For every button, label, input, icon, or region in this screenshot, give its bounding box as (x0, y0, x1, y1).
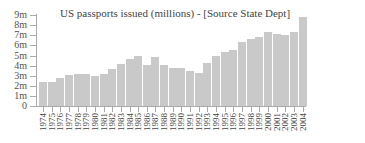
bar-1983 (117, 64, 125, 106)
x-tick-mark (199, 107, 200, 112)
bar-1990 (177, 68, 185, 106)
bar-1987 (151, 57, 159, 106)
bar-1998 (247, 39, 255, 106)
y-tick-label: 9m (0, 10, 27, 20)
x-axis (36, 106, 306, 107)
bar-1976 (56, 78, 64, 106)
y-tick-label: 4m (0, 61, 27, 71)
bar-1988 (160, 65, 168, 106)
bar-1982 (108, 69, 116, 106)
x-tick-mark (303, 107, 304, 112)
y-tick-mark (30, 35, 36, 36)
x-tick-mark (69, 107, 70, 112)
y-tick-mark (30, 15, 36, 16)
bar-1978 (74, 74, 82, 106)
x-tick-mark (52, 107, 53, 112)
y-tick-mark (30, 96, 36, 97)
bar-chart: US passports issued (millions) - [Source… (0, 0, 365, 143)
x-tick-mark (147, 107, 148, 112)
bar-1989 (169, 68, 177, 106)
x-tick-mark (207, 107, 208, 112)
y-tick-label: 3m (0, 71, 27, 81)
bar-1994 (212, 56, 220, 106)
y-tick-mark (30, 86, 36, 87)
bar-1996 (229, 50, 237, 106)
x-tick-mark (155, 107, 156, 112)
y-tick-label: 6m (0, 40, 27, 50)
y-tick-mark (30, 56, 36, 57)
bar-1985 (134, 56, 142, 106)
y-tick-mark (30, 66, 36, 67)
x-tick-mark (225, 107, 226, 112)
bar-1977 (65, 75, 73, 106)
bar-1992 (195, 73, 203, 106)
x-tick-mark (78, 107, 79, 112)
x-tick-mark (112, 107, 113, 112)
bar-1980 (91, 76, 99, 106)
x-tick-mark (190, 107, 191, 112)
x-tick-mark (181, 107, 182, 112)
bar-1984 (126, 59, 134, 106)
x-tick-mark (60, 107, 61, 112)
bar-1974 (39, 82, 47, 106)
bar-1997 (238, 42, 246, 106)
bar-1995 (221, 52, 229, 106)
bar-2003 (290, 32, 298, 106)
y-tick-label: 7m (0, 30, 27, 40)
bar-2001 (273, 34, 281, 106)
y-tick-mark (30, 106, 36, 107)
y-tick-mark (30, 45, 36, 46)
x-tick-mark (259, 107, 260, 112)
x-tick-mark (164, 107, 165, 112)
bar-2004 (299, 17, 307, 106)
x-tick-mark (277, 107, 278, 112)
x-tick-mark (173, 107, 174, 112)
bar-2000 (264, 32, 272, 106)
x-tick-mark (130, 107, 131, 112)
y-tick-label: 5m (0, 51, 27, 61)
bar-1993 (203, 63, 211, 106)
bar-1991 (186, 71, 194, 106)
y-tick-mark (30, 76, 36, 77)
x-tick-label: 2004 (299, 113, 308, 131)
bar-1986 (143, 65, 151, 106)
y-tick-mark (30, 25, 36, 26)
bar-2002 (281, 35, 289, 106)
x-tick-mark (294, 107, 295, 112)
x-tick-mark (216, 107, 217, 112)
y-axis (36, 14, 37, 106)
x-tick-mark (104, 107, 105, 112)
y-tick-label: 1m (0, 91, 27, 101)
x-tick-mark (285, 107, 286, 112)
x-tick-mark (233, 107, 234, 112)
x-tick-mark (95, 107, 96, 112)
bar-1999 (255, 37, 263, 106)
y-tick-label: 2m (0, 81, 27, 91)
y-tick-label: 8m (0, 20, 27, 30)
x-tick-mark (138, 107, 139, 112)
y-tick-label: 0 (0, 101, 27, 111)
x-tick-mark (242, 107, 243, 112)
x-tick-mark (121, 107, 122, 112)
x-tick-mark (251, 107, 252, 112)
x-tick-mark (268, 107, 269, 112)
x-tick-mark (43, 107, 44, 112)
bar-1979 (82, 74, 90, 106)
bar-1981 (100, 74, 108, 106)
x-tick-mark (86, 107, 87, 112)
chart-title: US passports issued (millions) - [Source… (60, 7, 290, 19)
bar-1975 (48, 82, 56, 106)
